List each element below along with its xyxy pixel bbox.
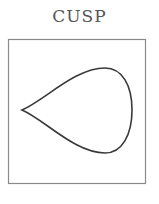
cusp-curve — [22, 68, 132, 153]
cusp-diagram — [0, 0, 159, 204]
diagram-frame — [9, 40, 146, 184]
